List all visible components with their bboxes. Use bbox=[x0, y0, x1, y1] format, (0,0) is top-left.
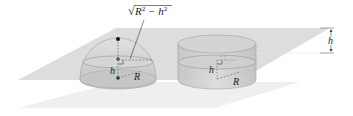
side-h-label: h bbox=[328, 35, 333, 46]
cross-section-center-dot bbox=[116, 57, 120, 61]
figure-canvas: √ R2 − h2 h R h R h bbox=[0, 0, 353, 116]
upper-plane bbox=[18, 28, 330, 80]
cylinder-r-label: R bbox=[232, 76, 239, 87]
svg-text:R2 − h2: R2 − h2 bbox=[134, 5, 168, 17]
lower-plane bbox=[18, 82, 300, 108]
svg-text:√: √ bbox=[128, 4, 135, 18]
base-center-dot bbox=[116, 76, 120, 80]
apex-dot bbox=[116, 37, 120, 41]
cylinder-h-label: h bbox=[209, 64, 214, 75]
cylinder bbox=[178, 35, 256, 89]
hemisphere-r-label: R bbox=[133, 71, 140, 82]
hemisphere-h-label: h bbox=[110, 65, 115, 76]
sqrt-label: √ R2 − h2 bbox=[128, 4, 172, 18]
